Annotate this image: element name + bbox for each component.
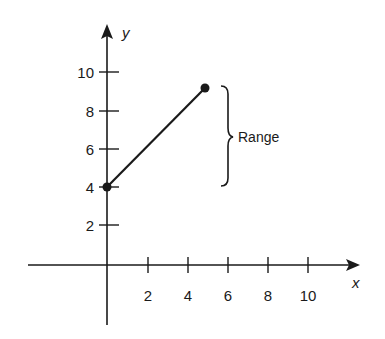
x-tick-label: 4 [184,287,192,304]
y-tick-label: 10 [77,64,94,81]
chart: y x 2 4 6 8 10 2 4 6 8 10 Range [0,0,385,339]
end-point [201,84,210,93]
x-tick-label: 10 [300,287,317,304]
range-brace-icon [221,86,233,186]
x-tick-label: 2 [144,287,152,304]
y-tick-label: 8 [86,103,94,120]
y-axis-label: y [121,24,131,41]
y-ticks [99,72,119,225]
y-tick-label: 4 [86,179,94,196]
range-label: Range [238,129,279,145]
x-tick-label: 6 [224,287,232,304]
start-point [103,183,112,192]
x-tick-label: 8 [264,287,272,304]
data-segment [107,88,205,187]
y-tick-label: 2 [86,217,94,234]
y-tick-label: 6 [86,141,94,158]
x-axis-label: x [351,274,360,291]
